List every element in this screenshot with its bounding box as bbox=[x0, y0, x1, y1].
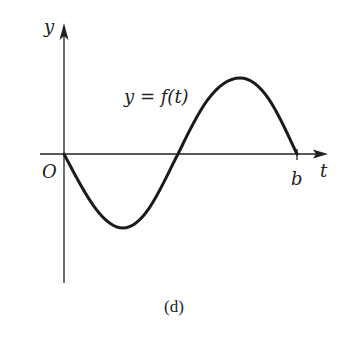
curve-label: y = f(t) bbox=[123, 86, 189, 107]
t-axis-label: t bbox=[320, 160, 328, 181]
function-graph: y t O b y = f(t) (d) bbox=[0, 0, 348, 347]
b-label: b bbox=[291, 168, 303, 189]
figure-caption: (d) bbox=[164, 297, 184, 316]
origin-label: O bbox=[42, 161, 57, 182]
y-axis-label: y bbox=[43, 16, 55, 37]
t-axis bbox=[40, 150, 328, 159]
